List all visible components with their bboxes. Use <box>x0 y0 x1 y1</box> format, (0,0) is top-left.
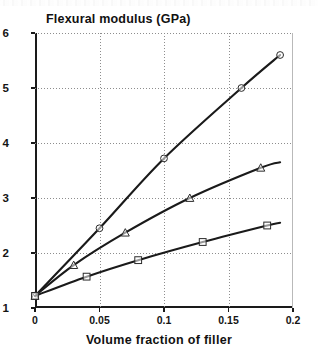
x-tick-label: 0 <box>32 314 38 326</box>
y-tick-label: 2 <box>0 247 9 259</box>
data-point-triangle <box>121 229 129 236</box>
x-tick-label: 0.15 <box>218 314 238 326</box>
x-tick <box>34 308 35 312</box>
series-line-square <box>35 223 280 296</box>
chart-figure: Flexural modulus (GPa) Volume fraction o… <box>0 0 318 361</box>
y-tick-label: 4 <box>0 137 9 149</box>
scan-artifact-band <box>0 0 318 6</box>
data-point-square <box>83 273 90 280</box>
data-point-circle <box>238 85 245 92</box>
data-point-square <box>264 222 271 229</box>
x-tick <box>163 308 164 312</box>
y-tick-label: 1 <box>0 302 9 314</box>
y-tick-label: 3 <box>0 192 9 204</box>
data-point-square <box>32 293 39 300</box>
x-tick <box>292 308 293 312</box>
data-point-square <box>135 257 142 264</box>
x-tick-label: 0.2 <box>286 314 301 326</box>
data-point-square <box>199 239 206 246</box>
y-tick-label: 6 <box>0 27 9 39</box>
data-curves <box>35 33 293 308</box>
x-tick-label: 0.05 <box>89 314 109 326</box>
x-tick <box>99 308 100 312</box>
x-tick-label: 0.1 <box>157 314 172 326</box>
x-axis-title: Volume fraction of filler <box>0 333 318 347</box>
y-axis-title: Flexural modulus (GPa) <box>46 12 191 26</box>
plot-area <box>35 33 293 308</box>
data-point-circle <box>96 225 103 232</box>
y-tick-label: 5 <box>0 82 9 94</box>
data-point-circle <box>161 155 168 162</box>
x-tick <box>228 308 229 312</box>
series-line-triangle <box>35 162 280 296</box>
data-point-circle <box>277 52 284 59</box>
